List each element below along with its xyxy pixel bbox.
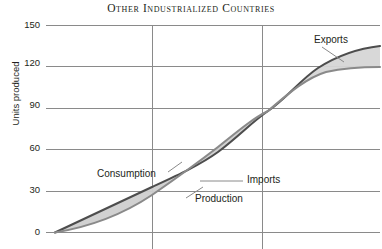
annotation-imports: Imports — [247, 174, 280, 185]
annotation-exports: Exports — [314, 34, 348, 45]
annotation-consumption: Consumption — [97, 168, 156, 179]
imports-band-fill — [55, 111, 268, 233]
consumption-line — [55, 46, 380, 233]
annotation-production: Production — [195, 193, 243, 204]
exports-band-fill — [268, 46, 380, 111]
chart-figure: Other Industrialized Countries Units pro… — [0, 0, 382, 249]
consumption-leader-line — [168, 162, 182, 172]
